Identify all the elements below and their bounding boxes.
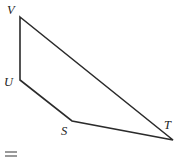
equals-mark-artifact xyxy=(5,151,17,158)
figure-background xyxy=(0,0,178,162)
equals-mark-bar-bottom xyxy=(5,155,17,157)
vertex-label-v: V xyxy=(7,4,15,17)
vertex-label-t: T xyxy=(164,119,171,132)
quadrilateral-figure xyxy=(0,0,178,162)
vertex-label-u: U xyxy=(4,76,13,89)
equals-mark-bar-top xyxy=(5,151,17,153)
vertex-label-s: S xyxy=(61,125,67,138)
figure-canvas: V T S U xyxy=(0,0,178,162)
